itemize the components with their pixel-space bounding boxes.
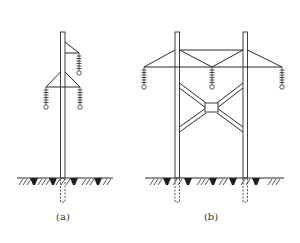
panel-b-label: (b) (204, 211, 218, 222)
panel-a-pole-structure (17, 32, 113, 202)
brace-connector-plate (205, 103, 218, 112)
insulator-b-right (280, 67, 285, 89)
x-bracing (180, 83, 244, 132)
insulator-a-upper (77, 53, 82, 75)
pole-b-right (243, 32, 248, 178)
diagram-canvas (0, 0, 300, 243)
insulator-a-left (44, 87, 49, 109)
pole-b-left (175, 32, 180, 178)
ground-hatch-b (150, 178, 280, 185)
panel-a-label: (a) (56, 211, 70, 222)
insulator-b-middle (210, 67, 215, 89)
pole-a (61, 32, 66, 178)
pole-b-left-foundation (175, 179, 180, 202)
panel-b-h-frame-structure (142, 32, 285, 202)
insulator-b-left (142, 67, 147, 89)
pole-b-right-foundation (243, 179, 248, 202)
insulator-a-right (78, 87, 83, 109)
